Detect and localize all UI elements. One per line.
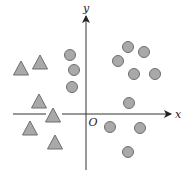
axes: x y O: [13, 2, 182, 170]
scatter-diagram: x y O: [0, 0, 187, 178]
triangle-marker: [32, 94, 47, 108]
origin-label: O: [88, 116, 97, 129]
y-axis-label: y: [82, 2, 90, 15]
circle-marker: [150, 69, 161, 80]
circle-marker: [139, 47, 150, 58]
circle-marker: [129, 69, 140, 80]
circle-marker: [67, 82, 78, 93]
circle-marker: [105, 122, 116, 133]
circle-marker: [135, 123, 146, 134]
triangle-marker: [48, 135, 63, 149]
triangle-marker: [46, 108, 61, 122]
triangle-marker: [14, 61, 29, 75]
circle-marker: [65, 50, 76, 61]
circle-marker: [123, 147, 134, 158]
triangle-markers: [14, 55, 63, 149]
circle-marker: [123, 42, 134, 53]
circle-marker: [69, 65, 80, 76]
x-axis-label: x: [175, 108, 182, 121]
circle-marker: [124, 98, 135, 109]
triangle-marker: [23, 121, 38, 135]
circle-marker: [113, 56, 124, 67]
circle-markers: [65, 42, 161, 158]
triangle-marker: [33, 55, 48, 69]
